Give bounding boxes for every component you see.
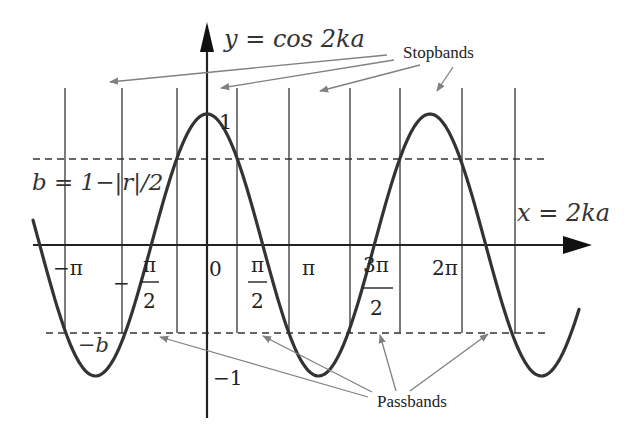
passband-arrow [263, 336, 372, 392]
x-axis-label: x = 2ka [517, 199, 610, 227]
band-edge-lines [65, 88, 515, 333]
passbands-arrows [160, 334, 488, 397]
stopband-arrow [437, 67, 453, 91]
band-diagram-svg: y = cos 2ka x = 2ka b = 1−|r|/2 −b 1 −1 … [0, 0, 640, 442]
stopband-arrow [221, 60, 394, 88]
diagram-canvas: y = cos 2ka x = 2ka b = 1−|r|/2 −b 1 −1 … [0, 0, 640, 442]
passbands-label: Passbands [377, 392, 447, 411]
y-axis-label: y = cos 2ka [223, 25, 365, 53]
y-tick-neg1: −1 [213, 366, 242, 390]
stopbands-arrows [110, 55, 453, 91]
y-axis-arrow-icon [200, 22, 214, 52]
passband-arrow [160, 337, 368, 397]
passband-arrow [410, 334, 488, 391]
x-tick-zero: 0 [209, 257, 222, 281]
neg-b-label: −b [78, 333, 109, 357]
y-tick-1: 1 [219, 110, 232, 134]
passband-arrow [380, 335, 396, 391]
x-tick-neg-half-pi-num: π [143, 253, 156, 277]
x-tick-neg-half-pi-den: 2 [143, 289, 156, 313]
b-label: b = 1−|r|/2 [32, 169, 163, 196]
x-tick-half-pi-num: π [251, 253, 264, 277]
x-tick-neg-pi: −π [53, 256, 83, 280]
stopbands-label: Stopbands [403, 43, 474, 62]
x-tick-three-half-pi-num: 3π [363, 253, 389, 277]
x-tick-pi: π [302, 256, 315, 280]
x-tick-labels: −π − π 2 0 π 2 π 3π 2 2π [53, 253, 458, 320]
x-tick-neg-half-pi-sign: − [113, 271, 130, 295]
x-axis-arrow-icon [563, 236, 592, 254]
x-tick-half-pi-den: 2 [251, 289, 264, 313]
x-tick-two-pi: 2π [432, 256, 458, 280]
x-tick-three-half-pi-den: 2 [370, 296, 383, 320]
